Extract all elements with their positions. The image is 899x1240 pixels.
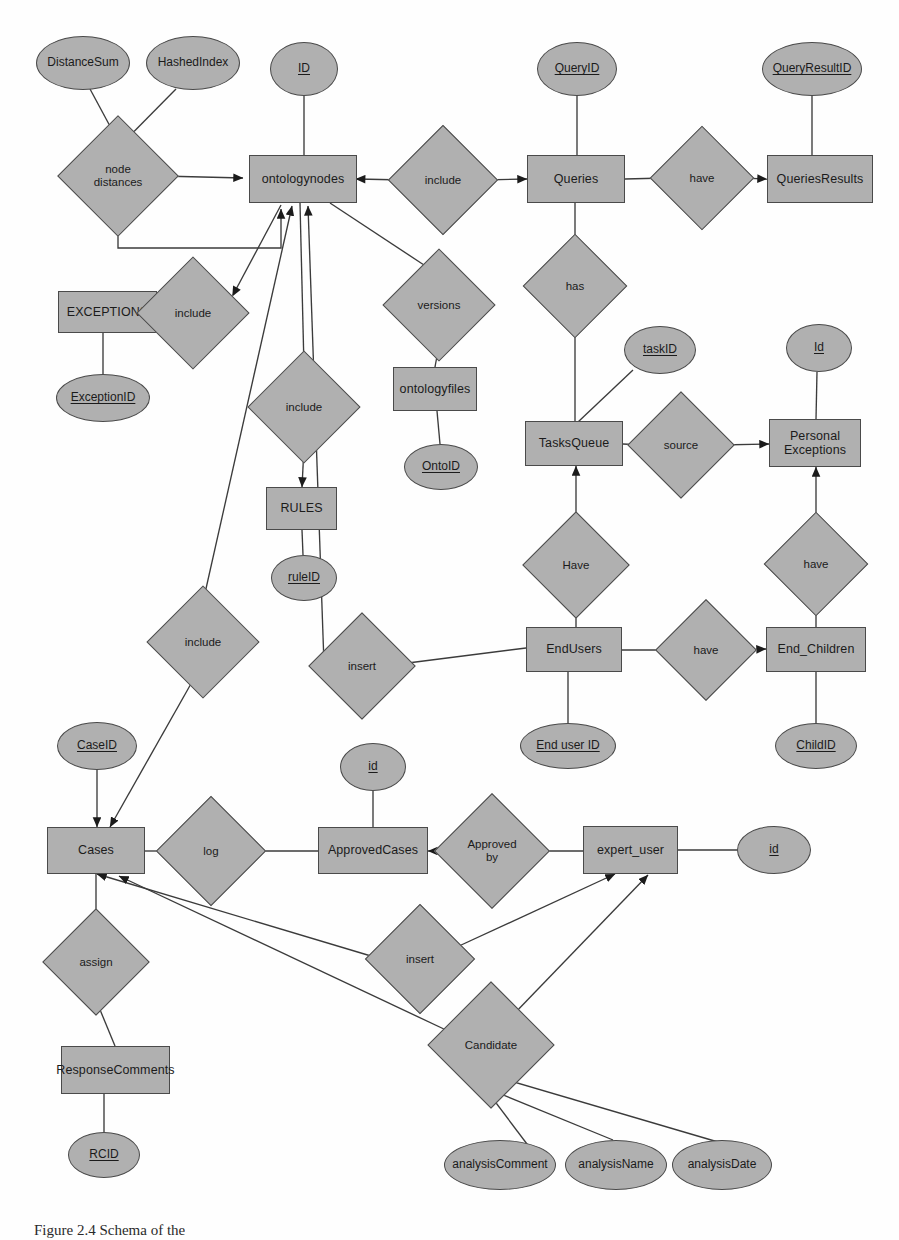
attribute-queryresultid[interactable]: QueryResultID: [762, 42, 862, 96]
entity-tasksqueue[interactable]: TasksQueue: [525, 421, 623, 466]
attribute-queryid[interactable]: QueryID: [537, 42, 617, 96]
relationship-rel_have_ec[interactable]: have: [670, 614, 742, 686]
attribute-label-analysisname: analysisName: [578, 1158, 653, 1171]
relationship-label-rel_versions: versions: [416, 299, 463, 312]
attribute-rcid[interactable]: RCID: [68, 1132, 140, 1178]
endusers-to-insert: [400, 648, 526, 664]
relationship-rel_include_q[interactable]: include: [404, 141, 482, 219]
ontologyfiles-to-ontoid: [437, 411, 440, 444]
relationship-rel_insert_eu[interactable]: insert: [324, 628, 400, 704]
attribute-label-ontoid: OntoID: [422, 460, 460, 473]
entity-label-queriesresults: QueriesResults: [777, 172, 864, 186]
relationship-rel_have_tq[interactable]: Have: [538, 527, 614, 603]
attribute-caseid[interactable]: CaseID: [57, 722, 137, 770]
attribute-label-enduserid: End user ID: [536, 739, 599, 752]
attribute-hashedindex[interactable]: HashedIndex: [146, 36, 240, 90]
attribute-label-ruleid: ruleID: [288, 571, 320, 584]
include-to-ontologynodes: [233, 205, 281, 295]
relationship-label-rel_has: has: [564, 280, 587, 293]
candidate-to-analysisdate: [507, 1080, 718, 1142]
attribute-taskid[interactable]: taskID: [624, 326, 696, 374]
attribute-label-expertuser_id: id: [769, 843, 778, 856]
relationship-label-rel_have_qr: have: [688, 172, 717, 185]
relationship-rel_source[interactable]: source: [643, 407, 719, 483]
relationship-rel_approvedby[interactable]: Approvedby: [451, 810, 533, 892]
relationship-rel_assign[interactable]: assign: [58, 924, 134, 1000]
attribute-label-approvedcase_id: id: [368, 760, 377, 773]
entity-rules[interactable]: RULES: [266, 487, 337, 530]
relationship-label-rel_have_ec: have: [692, 644, 721, 657]
entity-label-ontologyfiles: ontologyfiles: [400, 382, 471, 396]
relationship-label-rel_insert_eu: insert: [346, 660, 378, 673]
entity-label-ontologynodes: ontologynodes: [262, 172, 345, 186]
attribute-enduserid[interactable]: End user ID: [520, 723, 616, 769]
relationship-label-rel_include_c: include: [183, 636, 223, 649]
relationship-label-rel_approvedby: Approvedby: [465, 838, 518, 863]
entity-endchildren[interactable]: End_Children: [766, 627, 866, 672]
attribute-label-childid: ChildID: [796, 739, 835, 752]
attribute-exceptionid[interactable]: ExceptionID: [56, 374, 150, 422]
attribute-analysisname[interactable]: analysisName: [565, 1140, 667, 1190]
relationship-rel_candidate[interactable]: Candidate: [446, 1000, 536, 1090]
relationship-label-rel_have_tq: Have: [561, 559, 592, 572]
ontologynodes-to-include-rules: [300, 203, 304, 367]
relationship-rel_insert_ex[interactable]: insert: [381, 920, 459, 998]
entity-label-responsecomments: ResponseComments: [56, 1063, 174, 1077]
relationship-rel_versions[interactable]: versions: [399, 265, 479, 345]
entity-personalexc[interactable]: PersonalExceptions: [769, 419, 861, 467]
taskid-to-tasksqueue: [578, 370, 633, 422]
attribute-approvedcase_id[interactable]: id: [340, 743, 406, 791]
relationship-node_distances[interactable]: nodedistances: [75, 133, 161, 219]
entity-ontologyfiles[interactable]: ontologyfiles: [393, 367, 477, 411]
attribute-label-distancesum: DistanceSum: [47, 56, 118, 69]
relationship-rel_have_qr[interactable]: have: [665, 141, 739, 215]
relationship-label-rel_include_q: include: [423, 174, 463, 187]
entity-endusers[interactable]: EndUsers: [526, 627, 622, 672]
attribute-ruleid[interactable]: ruleID: [271, 555, 337, 601]
entity-ontologynodes[interactable]: ontologynodes: [249, 155, 357, 203]
relationship-label-rel_source: source: [662, 439, 701, 452]
rules-to-ruleid: [302, 530, 303, 555]
entity-approvedcases[interactable]: ApprovedCases: [318, 827, 428, 874]
relationship-rel_has[interactable]: has: [538, 249, 612, 323]
entity-queries[interactable]: Queries: [527, 155, 625, 203]
entity-queriesresults[interactable]: QueriesResults: [767, 155, 873, 203]
attribute-personalexc_id[interactable]: Id: [786, 324, 852, 372]
attribute-label-analysisdate: analysisDate: [688, 1158, 757, 1171]
relationship-rel_include_c[interactable]: include: [163, 602, 243, 682]
attribute-childid[interactable]: ChildID: [775, 723, 857, 769]
entity-expertuser[interactable]: expert_user: [583, 826, 678, 874]
entity-cases[interactable]: Cases: [47, 827, 145, 874]
entity-label-expertuser: expert_user: [597, 843, 664, 857]
candidate-to-analysisname: [491, 1090, 613, 1140]
attribute-distancesum[interactable]: DistanceSum: [36, 36, 130, 90]
relationship-rel_log[interactable]: log: [172, 812, 250, 890]
relationship-label-rel_have_pe: have: [802, 558, 831, 571]
entity-label-tasksqueue: TasksQueue: [539, 436, 609, 450]
attribute-analysiscomment[interactable]: analysisComment: [444, 1140, 556, 1190]
relationship-label-rel_include_ex: include: [173, 307, 213, 320]
attribute-label-personalexc_id: Id: [814, 341, 824, 354]
relationship-rel_include_r[interactable]: include: [264, 367, 344, 447]
attribute-ontonode_id[interactable]: ID: [270, 42, 338, 96]
id-to-personalexceptions: [816, 372, 817, 419]
relationship-rel_have_pe[interactable]: have: [779, 527, 853, 601]
entity-label-queries: Queries: [554, 172, 598, 186]
er-diagram-canvas: ontologynodesQueriesQueriesResultsEXCEPT…: [0, 0, 899, 1240]
attribute-label-taskid: taskID: [643, 343, 677, 356]
entity-label-cases: Cases: [78, 843, 114, 857]
candidate-to-expertuser: [512, 875, 648, 1016]
relationship-label-rel_assign: assign: [77, 956, 114, 969]
relationship-rel_include_ex[interactable]: include: [153, 273, 233, 353]
entity-responsecomments[interactable]: ResponseComments: [61, 1046, 170, 1094]
attribute-analysisdate[interactable]: analysisDate: [672, 1140, 772, 1190]
attribute-label-queryresultid: QueryResultID: [773, 62, 852, 75]
attribute-expertuser_id[interactable]: id: [737, 826, 811, 874]
entity-label-endusers: EndUsers: [546, 642, 602, 656]
relationship-label-rel_insert_ex: insert: [404, 953, 436, 966]
attribute-ontoid[interactable]: OntoID: [404, 444, 478, 490]
attribute-label-rcid: RCID: [89, 1148, 118, 1161]
attribute-label-hashedindex: HashedIndex: [158, 56, 229, 69]
entity-label-approvedcases: ApprovedCases: [328, 843, 418, 857]
relationship-label-rel_log: log: [201, 845, 220, 858]
